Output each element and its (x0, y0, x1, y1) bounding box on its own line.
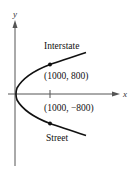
top-point-label: (1000, 800) (44, 71, 88, 82)
bottom-point-label: (1000, −800) (44, 103, 94, 114)
point-top (48, 63, 52, 67)
diagram-canvas: y x Interstate (1000, 800) (1000, −800) … (0, 0, 135, 174)
point-bottom (48, 122, 52, 126)
street-label: Street (46, 133, 69, 143)
parabola-diagram: y x Interstate (1000, 800) (1000, −800) … (0, 0, 135, 174)
x-axis-arrow-icon (112, 92, 120, 97)
y-axis-arrow-icon (13, 20, 18, 28)
interstate-label: Interstate (44, 41, 79, 51)
x-axis-label: x (122, 89, 127, 99)
y-axis-label: y (12, 9, 17, 19)
